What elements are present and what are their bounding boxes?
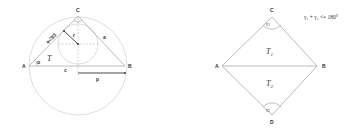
vertex-a-label: A xyxy=(215,63,219,69)
geometry-diagrams: A B C a c p r α T a√3/3 A B C D γ1 γ2 T1… xyxy=(0,0,362,132)
p-end-point xyxy=(124,72,126,74)
area-t2-label: T2 xyxy=(266,79,273,89)
radius-r-label: r xyxy=(73,32,75,38)
side-ad xyxy=(222,66,272,115)
side-b-label: a√3/3 xyxy=(44,31,57,44)
side-c-label: c xyxy=(64,67,67,73)
vertex-c-label: C xyxy=(270,7,274,13)
angle-alpha-label: α xyxy=(37,59,41,65)
vertex-c-label: C xyxy=(76,7,80,13)
side-ac xyxy=(222,17,272,66)
vertex-b-label: B xyxy=(322,63,326,69)
area-t1-label: T1 xyxy=(266,47,273,57)
left-figure: A B C a c p r α T a√3/3 xyxy=(22,7,132,115)
angle-gamma1-label: γ1 xyxy=(266,21,270,27)
side-a xyxy=(78,16,125,66)
right-figure: A B C D γ1 γ2 T1 T2 γ₁ + γ₂ <= 180° xyxy=(215,7,338,125)
side-cb xyxy=(272,17,317,66)
angle-sum-formula: γ₁ + γ₂ <= 180° xyxy=(303,14,338,20)
area-t-label: T xyxy=(47,54,52,63)
angle-gamma2-label: γ2 xyxy=(266,107,270,113)
vertex-a-label: A xyxy=(22,63,26,69)
vertex-b-label: B xyxy=(128,63,132,69)
side-db xyxy=(272,66,317,115)
tangent-point xyxy=(63,30,65,32)
radius-r xyxy=(64,31,78,44)
segment-p-label: p xyxy=(96,76,99,82)
angle-c-arc xyxy=(74,20,82,22)
incenter-point xyxy=(77,43,79,45)
side-a-label: a xyxy=(103,34,106,40)
vertex-d-label: D xyxy=(270,119,274,125)
